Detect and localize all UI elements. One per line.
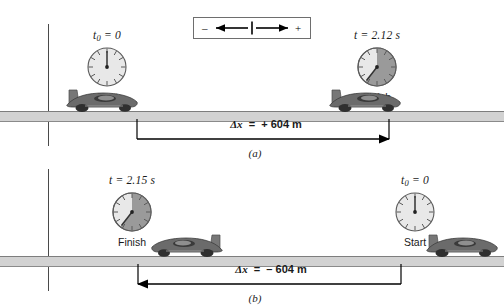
clock-start-a bbox=[85, 45, 129, 89]
clock-time-start-a: t0 = 0 bbox=[37, 29, 177, 43]
clock-finish-a bbox=[355, 45, 399, 89]
motion-figure: – + t0 = 0 bbox=[0, 0, 504, 306]
origin-axis-line-b bbox=[48, 169, 49, 291]
panel-a: t0 = 0 Start t = 2.12 s bbox=[0, 18, 504, 158]
clock-time-finish-a: t = 2.12 s bbox=[307, 29, 447, 41]
car-finish-a bbox=[318, 84, 404, 114]
clock-time-finish-b: t = 2.15 s bbox=[62, 174, 202, 186]
car-finish-b bbox=[148, 229, 234, 259]
displacement-label-b: Δx = – 604 m bbox=[141, 263, 401, 275]
clock-finish-b bbox=[110, 190, 154, 234]
car-start-a bbox=[55, 84, 141, 114]
clock-time-start-b: t0 = 0 bbox=[345, 174, 485, 188]
panel-caption-a: (a) bbox=[225, 147, 285, 159]
panel-b: t = 2.15 s Finish t0 bbox=[0, 163, 504, 303]
displacement-label-a: Δx = + 604 m bbox=[136, 118, 396, 130]
clock-start-b bbox=[393, 190, 437, 234]
car-start-b bbox=[415, 229, 501, 259]
panel-caption-b: (b) bbox=[225, 292, 285, 304]
